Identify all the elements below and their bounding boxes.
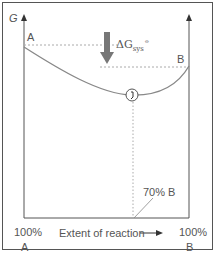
- equilibrium-point-marker: [126, 89, 138, 101]
- delta-g-subscript: sys: [133, 45, 144, 53]
- delta-g-label: ΔGsys⦵: [116, 38, 150, 53]
- delta-g-superscript: ⦵: [144, 37, 150, 45]
- delta-g-arrow-shaft: [104, 32, 110, 54]
- curve-start-label: A: [27, 32, 34, 43]
- delta-g-symbol: ΔG: [116, 38, 133, 51]
- y-axis-arrowhead-right: [186, 14, 192, 21]
- x-axis-label-arrowhead: [156, 230, 163, 236]
- curve-end-label: B: [177, 54, 184, 65]
- x-axis-left-percent: 100%: [14, 227, 42, 238]
- y-axis-arrowhead-left: [21, 14, 27, 21]
- x-axis-left-species: A: [21, 242, 28, 253]
- x-axis-right-species: B: [186, 242, 193, 253]
- delta-g-arrowhead: [100, 52, 114, 64]
- equilibrium-label-leader: [134, 198, 153, 218]
- x-axis-label: Extent of reaction: [59, 228, 145, 239]
- equilibrium-label: 70% B: [143, 187, 175, 198]
- y-axis-label: G: [9, 13, 18, 24]
- x-axis-right-percent: 100%: [179, 227, 207, 238]
